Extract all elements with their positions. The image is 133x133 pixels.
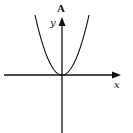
y-axis-arrowhead: [59, 17, 66, 26]
x-axis-label: x: [114, 79, 120, 90]
y-axis-label: y: [49, 17, 56, 28]
figure-label: A: [57, 2, 65, 14]
graph-canvas: A y x: [0, 0, 133, 133]
x-axis-arrowhead: [112, 72, 121, 79]
